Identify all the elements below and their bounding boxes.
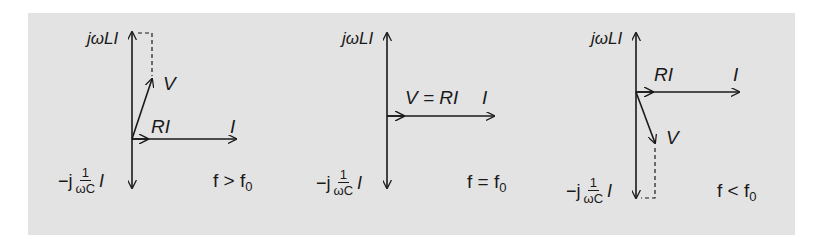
diagram-above-resonance — [132, 32, 236, 188]
inductive-label: jωLI — [591, 30, 622, 47]
condition-label: f < f0 — [717, 181, 756, 203]
dashed-projection — [641, 148, 655, 198]
capacitive-label: −j 1 ωC I — [58, 166, 104, 195]
inductive-label: jωLI — [87, 30, 118, 47]
capacitive-prefix: −j — [58, 172, 73, 190]
inductive-label: jωLI — [342, 30, 373, 47]
capacitive-prefix: −j — [316, 174, 331, 192]
condition-label: f > f0 — [213, 171, 252, 193]
current-label: I — [482, 88, 487, 107]
diagram-below-resonance — [636, 33, 739, 198]
capacitive-prefix: −j — [566, 182, 581, 200]
capacitive-suffix: I — [357, 174, 362, 192]
current-label: I — [733, 65, 738, 84]
fraction-denominator: ωC — [584, 191, 604, 205]
fraction-denominator: ωC — [76, 181, 96, 195]
capacitive-fraction: 1 ωC — [334, 168, 354, 197]
resistive-label: RI — [654, 65, 673, 84]
fraction-numerator: 1 — [80, 166, 91, 181]
capacitive-fraction: 1 ωC — [584, 176, 604, 205]
capacitive-suffix: I — [607, 182, 612, 200]
fraction-numerator: 1 — [338, 168, 349, 183]
current-label: I — [230, 117, 235, 136]
voltage-phasor-arrow — [636, 92, 655, 143]
fraction-denominator: ωC — [334, 183, 354, 197]
capacitive-label: −j 1 ωC I — [316, 168, 362, 197]
condition-label: f = f0 — [467, 172, 506, 194]
voltage-label: V — [163, 74, 176, 93]
capacitive-fraction: 1 ωC — [76, 166, 96, 195]
fraction-numerator: 1 — [588, 176, 599, 191]
diagram-at-resonance — [387, 33, 494, 188]
capacitive-label: −j 1 ωC I — [566, 176, 612, 205]
voltage-phasor-arrow — [132, 79, 152, 139]
dashed-projection — [138, 33, 152, 76]
capacitive-suffix: I — [99, 172, 104, 190]
resistive-voltage-label: V = RI — [405, 88, 458, 107]
voltage-label: V — [666, 128, 679, 147]
phasor-diagrams — [0, 0, 818, 235]
resistive-label: RI — [151, 117, 170, 136]
